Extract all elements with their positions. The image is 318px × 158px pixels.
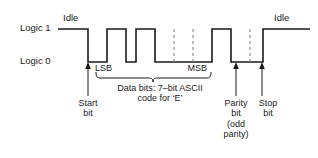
idle-left-label: Idle: [63, 13, 78, 24]
stop-bit-line-1: Stop: [259, 98, 278, 108]
timing-diagram: Logic 1 Logic 0 Idle Idle LSB MSB Start …: [0, 0, 318, 158]
start-bit-arrow: [85, 62, 91, 96]
parity-bit-line-1: Parity: [223, 98, 248, 108]
start-bit-line-1: Start: [78, 98, 97, 108]
data-bits-line-1: Data bits: 7–bit ASCII: [117, 83, 203, 93]
parity-bit-line-4: parity): [223, 129, 248, 139]
data-bits-line-2: code for ‘E’: [117, 93, 203, 103]
logic-1-label: Logic 1: [20, 23, 51, 34]
stop-bit-callout: Stop bit: [259, 98, 278, 119]
data-bits-brace: [96, 72, 211, 82]
parity-bit-arrow: [233, 62, 239, 96]
start-bit-callout: Start bit: [78, 98, 97, 119]
logic-0-label: Logic 0: [20, 56, 51, 67]
parity-bit-callout: Parity bit (odd parity): [223, 98, 248, 139]
msb-label: MSB: [187, 63, 207, 73]
stop-bit-line-2: bit: [259, 108, 278, 118]
lsb-label: LSB: [95, 63, 112, 73]
idle-right-label: Idle: [274, 13, 289, 24]
stop-bit-arrow: [259, 62, 265, 96]
start-bit-line-2: bit: [78, 108, 97, 118]
parity-bit-line-3: (odd: [223, 119, 248, 129]
parity-bit-line-2: bit: [223, 108, 248, 118]
signal-trace: [58, 29, 310, 62]
data-bits-callout: Data bits: 7–bit ASCII code for ‘E’: [117, 83, 203, 104]
